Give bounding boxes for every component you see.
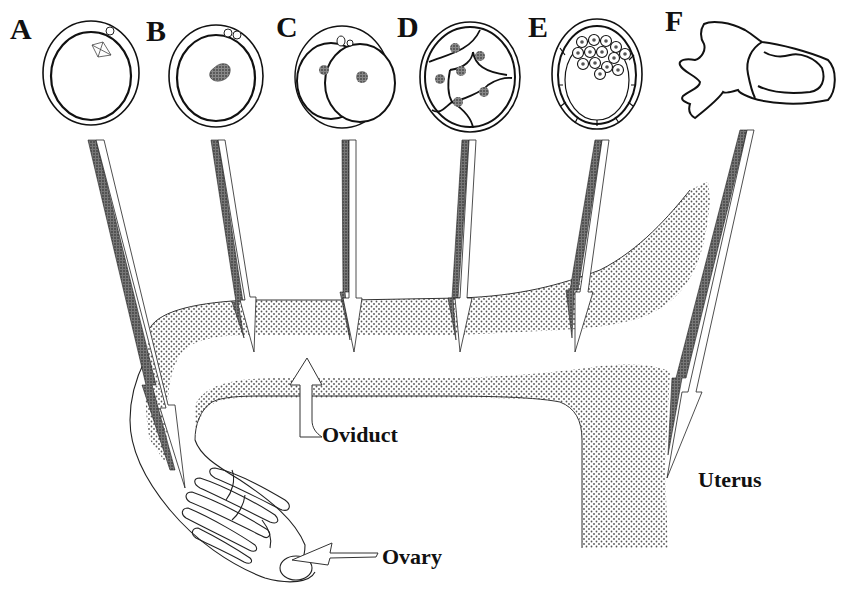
embryo-development-diagram: A B C D E F Oviduct Ovary Uterus	[0, 0, 847, 592]
stage-label-A: A	[10, 14, 32, 44]
stage-label-B: B	[146, 16, 166, 46]
stage-label-E: E	[528, 12, 548, 42]
stage-C-two-cell	[295, 26, 395, 128]
stage-E-blastocyst	[552, 19, 642, 129]
stage-A-oocyte	[43, 21, 139, 125]
uterus-label: Uterus	[698, 469, 762, 491]
oviduct-label: Oviduct	[322, 424, 398, 446]
diagram-artwork	[0, 0, 847, 592]
stage-B-zygote	[169, 25, 263, 127]
arrow-stage-F	[667, 130, 754, 478]
stage-label-F: F	[665, 6, 683, 36]
stage-label-D: D	[397, 12, 419, 42]
ovary-label: Ovary	[382, 546, 442, 568]
stage-label-C: C	[276, 12, 298, 42]
stage-F-implanting-embryo	[680, 22, 835, 118]
stage-D-cleavage	[420, 22, 520, 132]
